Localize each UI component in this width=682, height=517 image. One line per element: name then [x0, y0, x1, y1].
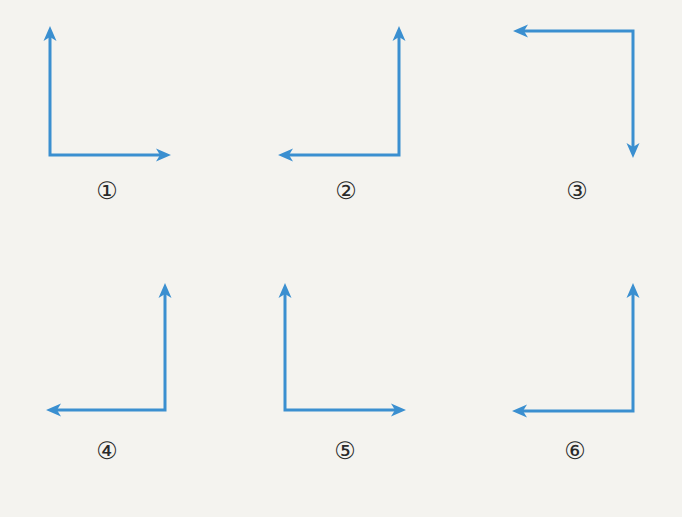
- figure-label-4: ④: [92, 436, 122, 466]
- figure-label-5: ⑤: [330, 436, 360, 466]
- figure-6: [512, 283, 640, 418]
- right-angle-line: [50, 37, 160, 155]
- figure-1: [44, 26, 172, 162]
- figure-label-2: ②: [331, 176, 361, 206]
- right-angle-line: [57, 294, 165, 410]
- figure-label-1: ①: [92, 176, 122, 206]
- figure-2: [278, 26, 406, 162]
- figure-3: [513, 25, 640, 159]
- right-angle-line: [285, 294, 395, 410]
- figure-label-3: ③: [562, 176, 592, 206]
- figure-4: [46, 283, 172, 417]
- figure-5: [279, 283, 407, 417]
- right-angle-line: [524, 31, 633, 147]
- figure-label-6: ⑥: [560, 436, 590, 466]
- right-angle-line: [289, 37, 399, 155]
- right-angle-line: [523, 294, 633, 411]
